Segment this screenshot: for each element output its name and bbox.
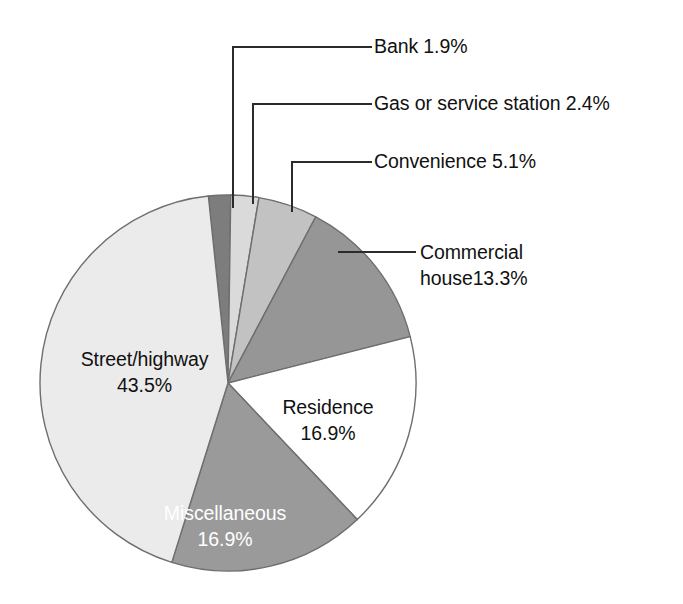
slice-label-commercial-house-line2: house13.3% [420,266,527,291]
slice-label-commercial-house-line1: Commercial [420,240,523,265]
leader-line-gas [253,104,372,204]
slice-label-miscellaneous-line2: 16.9% [140,527,310,552]
slice-label-gas-or-service-station: Gas or service station 2.4% [374,91,610,116]
leader-line-convenience [292,162,372,212]
slice-label-miscellaneous-line1: Miscellaneous [140,501,310,526]
slice-label-convenience: Convenience 5.1% [374,149,536,174]
slice-label-bank: Bank 1.9% [374,34,467,59]
slice-label-residence-line2: 16.9% [258,421,398,446]
slice-label-residence-line1: Residence [258,395,398,420]
slice-label-street-highway-line1: Street/highway [52,347,237,372]
slice-label-street-highway-line2: 43.5% [52,373,237,398]
pie-chart: Bank 1.9% Gas or service station 2.4% Co… [0,0,683,604]
